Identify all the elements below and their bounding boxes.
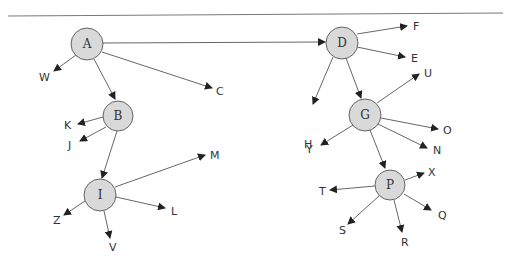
node-label: A [82,37,92,51]
node-D: D [326,27,358,59]
edge-D-E [357,47,405,57]
edge-G-N [378,124,427,148]
leaf-L: L [171,205,178,218]
node-label: B [114,109,123,123]
leaf-E: E [411,52,418,65]
edge-G-Y [321,125,353,145]
leaf-Q: Q [438,209,447,222]
top-rule [8,13,503,16]
edge-I-V [104,211,110,238]
edge-A-C [102,52,212,88]
node-label: I [98,188,103,202]
edge-G-U [377,74,419,103]
edge-D-H [313,57,333,104]
leaf-C: C [216,85,224,98]
node-label: P [386,178,394,192]
leaf-Z: Z [53,214,61,227]
node-P: P [375,170,405,200]
leaf-S: S [339,224,346,237]
edge-B-K [78,117,103,124]
leaf-W: W [39,71,50,84]
leaf-Y: Y [305,143,313,156]
edge-B-J [80,127,106,141]
edge-I-L [116,197,165,208]
leaf-X: X [428,166,436,179]
node-B: B [103,101,133,131]
edge-A-D [103,42,325,43]
edge-P-T [330,186,375,190]
edge-I-Z [64,201,85,215]
leaf-O: O [443,124,452,137]
edge-P-R [394,200,402,232]
leaf-F: F [413,20,419,33]
edge-G-P [370,130,385,168]
leaf-M: M [210,149,220,162]
node-label: G [360,108,370,122]
edge-B-I [102,131,117,178]
leaf-T: T [318,185,326,198]
edge-D-G [346,58,361,98]
edge-A-B [94,59,115,99]
leaf-U: U [424,67,432,80]
edge-P-Q [404,194,431,210]
tree-diagram: A B I D G P W C K J M L Z V F E U H O Y … [0,0,513,263]
edge-I-M [115,155,205,187]
leaf-K: K [64,119,72,132]
leaf-N: N [433,144,441,157]
node-I: I [84,179,116,211]
node-label: D [337,36,347,50]
edge-G-O [381,118,438,129]
edge-D-F [357,26,407,34]
leaf-R: R [401,236,409,249]
internal-nodes: A B I D G P [71,27,405,211]
node-G: G [349,99,381,131]
leaf-V: V [109,241,117,254]
leaf-J: J [67,139,71,152]
edge-A-W [54,55,76,71]
edge-P-S [348,196,379,224]
leaf-labels: W C K J M L Z V F E U H O Y N X T Q S R [39,20,452,254]
node-A: A [71,28,103,60]
edge-P-X [405,173,424,180]
